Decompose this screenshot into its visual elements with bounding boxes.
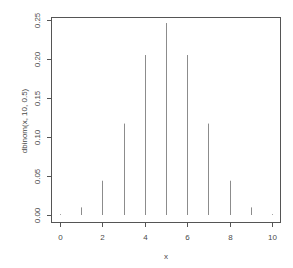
y-tick-label: 0.20 [33,51,42,67]
y-tick-label: 0.10 [33,129,42,145]
y-tick-label: 0.05 [33,168,42,184]
chart: 0.000.050.100.150.200.25 0246810 x dbino… [0,0,293,268]
y-axis-label: dbinom(x, 10, 0.5) [20,88,29,153]
y-tick-label: 0.00 [33,207,42,223]
bars-group [61,23,273,215]
x-tick-label: 2 [100,233,105,242]
y-tick-label: 0.15 [33,90,42,106]
x-tick-label: 8 [228,233,233,242]
x-tick-label: 6 [185,233,190,242]
y-axis: 0.000.050.100.150.200.25 [33,12,52,223]
x-tick-label: 4 [143,233,148,242]
x-tick-label: 0 [58,233,63,242]
x-tick-label: 10 [268,233,277,242]
x-axis-label: x [164,252,168,261]
y-tick-label: 0.25 [33,12,42,28]
x-axis: 0246810 [58,223,277,242]
